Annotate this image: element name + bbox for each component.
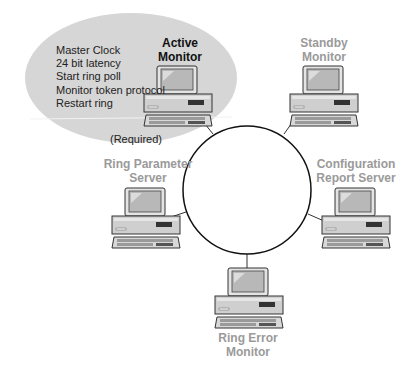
configuration-report-server-label: Configuration Report Server bbox=[308, 157, 404, 185]
label-line: Configuration bbox=[308, 157, 404, 171]
standby-monitor-computer-icon bbox=[290, 66, 358, 126]
required-note: (Required) bbox=[110, 133, 162, 145]
label-line: Server bbox=[100, 171, 196, 185]
ring-parameter-server-label: Ring Parameter Server bbox=[100, 157, 196, 185]
label-line: Monitor bbox=[150, 50, 210, 64]
function-item: 24 bit latency bbox=[56, 57, 165, 70]
label-line: Standby bbox=[292, 36, 356, 50]
label-line: Ring Error bbox=[210, 331, 286, 345]
function-item: Start ring poll bbox=[56, 70, 165, 83]
function-item: Restart ring bbox=[56, 97, 165, 110]
token-ring bbox=[183, 126, 311, 254]
active-monitor-functions: Master Clock 24 bit latency Start ring p… bbox=[56, 44, 165, 110]
ring-parameter-server-computer-icon bbox=[112, 188, 180, 248]
active-monitor-label: Active Monitor bbox=[150, 36, 210, 64]
ring-error-monitor-computer-icon bbox=[215, 268, 283, 328]
label-line: Report Server bbox=[308, 171, 404, 185]
label-line: Monitor bbox=[292, 50, 356, 64]
ring-error-monitor-label: Ring Error Monitor bbox=[210, 331, 286, 359]
label-line: Ring Parameter bbox=[100, 157, 196, 171]
label-line: Active bbox=[150, 36, 210, 50]
standby-monitor-label: Standby Monitor bbox=[292, 36, 356, 64]
function-item: Master Clock bbox=[56, 44, 165, 57]
function-item: Monitor token protocol bbox=[56, 84, 165, 97]
label-line: Monitor bbox=[210, 345, 286, 359]
configuration-report-server-computer-icon bbox=[322, 188, 390, 248]
